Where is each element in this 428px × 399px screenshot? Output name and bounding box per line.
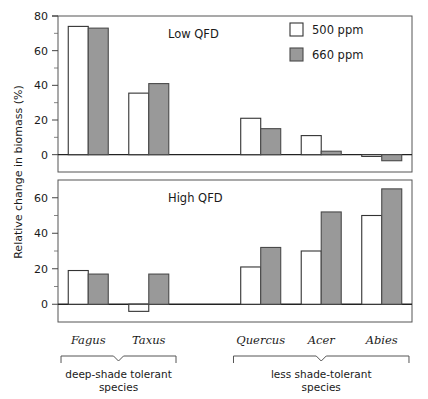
- bar-660ppm: [321, 212, 341, 304]
- group-bracket: [61, 356, 176, 363]
- bar-660ppm: [88, 28, 108, 155]
- bar-660ppm: [88, 274, 108, 304]
- group-label-line2: species: [99, 381, 138, 393]
- y-tick-label: 0: [41, 149, 48, 162]
- bar-660ppm: [261, 129, 281, 155]
- legend-swatch-660ppm: [290, 48, 303, 61]
- legend-swatch-500ppm: [290, 23, 303, 36]
- bar-500ppm: [301, 251, 321, 304]
- y-tick-label: 40: [34, 79, 48, 92]
- bar-660ppm: [382, 189, 402, 304]
- group-bracket: [233, 356, 408, 363]
- bar-500ppm: [129, 93, 149, 155]
- y-tick-label: 60: [34, 192, 48, 205]
- group-label-line1: less shade-tolerant: [271, 368, 372, 380]
- bar-660ppm: [261, 247, 281, 304]
- bar-500ppm: [301, 136, 321, 155]
- y-axis-title: Relative change in biomass (%): [12, 85, 25, 259]
- bar-500ppm: [241, 267, 261, 304]
- bar-660ppm: [149, 84, 169, 155]
- panel-frame: [58, 180, 412, 322]
- legend-label-text: 500 ppm: [312, 23, 363, 37]
- y-tick-label: 20: [34, 263, 48, 276]
- chart-legend: 500 ppm660 ppm: [290, 23, 363, 62]
- panel-high-qfd: 0204060High QFD: [34, 180, 412, 322]
- species-label-fagus: Fagus: [70, 333, 106, 347]
- group-label-line1: deep-shade tolerant: [65, 368, 172, 380]
- group-label-line2: species: [302, 381, 341, 393]
- bar-500ppm: [68, 271, 88, 305]
- y-tick-label: 40: [34, 227, 48, 240]
- panel-label-high-qfd: High QFD: [168, 191, 223, 205]
- bar-500ppm: [129, 304, 149, 311]
- y-tick-label: 80: [34, 10, 48, 23]
- species-label-taxus: Taxus: [132, 333, 166, 347]
- bar-660ppm: [149, 274, 169, 304]
- bar-660ppm: [321, 151, 341, 154]
- figure-container: Relative change in biomass (%) 020406080…: [0, 0, 428, 399]
- bar-500ppm: [362, 155, 382, 157]
- y-tick-label: 20: [34, 114, 48, 127]
- bar-500ppm: [362, 216, 382, 305]
- y-tick-label: 0: [41, 298, 48, 311]
- bar-chart: Relative change in biomass (%) 020406080…: [0, 0, 428, 399]
- bar-660ppm: [382, 155, 402, 161]
- bar-500ppm: [68, 26, 88, 154]
- y-tick-label: 60: [34, 45, 48, 58]
- group-brackets: deep-shade tolerantspeciesless shade-tol…: [61, 356, 409, 393]
- species-axis-labels: FagusTaxusQuercusAcerAbies: [70, 333, 398, 347]
- species-label-abies: Abies: [365, 333, 398, 347]
- species-label-acer: Acer: [307, 333, 337, 347]
- panel-label-low-qfd: Low QFD: [168, 27, 219, 41]
- species-label-quercus: Quercus: [236, 333, 285, 347]
- bar-500ppm: [241, 118, 261, 154]
- legend-label-text: 660 ppm: [312, 48, 363, 62]
- panel-frame: [58, 16, 412, 172]
